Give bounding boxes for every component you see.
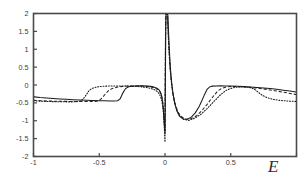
- x-tick-label: -1: [30, 158, 36, 167]
- y-tick-label: 0.5: [19, 63, 29, 72]
- x-tick-label: -0.5: [93, 158, 105, 167]
- y-tick-label: 1.5: [19, 27, 29, 36]
- x-tick-label: 0: [163, 158, 167, 167]
- y-tick-label: 2: [25, 9, 29, 18]
- y-tick-label: 1: [25, 45, 29, 54]
- y-tick-label: -1.5: [16, 134, 28, 143]
- x-tick-label: 0.5: [226, 158, 236, 167]
- y-tick-label: -2: [22, 152, 28, 161]
- y-tick-label: 0: [25, 81, 29, 90]
- x-axis-title: E: [268, 158, 278, 175]
- line-chart-figure: -2-1.5-1-0.500.511.52 -1-0.500.5: [0, 0, 308, 185]
- y-tick-label: -1: [22, 116, 28, 125]
- chart-screenshot: -2-1.5-1-0.500.511.52 -1-0.500.5 E: [0, 0, 308, 185]
- y-tick-label: -0.5: [16, 98, 28, 107]
